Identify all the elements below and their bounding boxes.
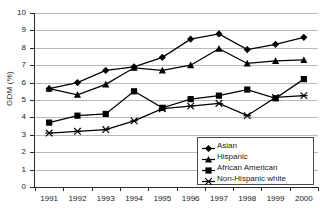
x-star-marker-icon: [201, 173, 216, 184]
data-point-square: [244, 86, 250, 92]
series-non-hispanic-white: [45, 92, 307, 136]
series-line: [49, 79, 304, 123]
data-point-x-star: [300, 92, 308, 99]
chart-legend: AsianHispanicAfrican AmericanNon-Hispani…: [197, 137, 314, 185]
series-african-american: [46, 76, 307, 126]
data-point-x-star: [102, 126, 110, 133]
data-point-diamond: [244, 46, 251, 53]
legend-label: Non-Hispanic white: [216, 174, 286, 183]
data-point-square: [301, 76, 307, 82]
square-marker-icon: [201, 162, 216, 173]
gdm-trend-line-chart: GDM (%) 012345678910 1991199219931994199…: [0, 0, 325, 217]
data-point-x-star: [130, 118, 138, 125]
data-point-square: [46, 120, 52, 126]
legend-item-african-american: African American: [201, 162, 310, 173]
data-point-x-star: [187, 103, 195, 110]
data-point-diamond: [272, 41, 279, 48]
legend-label: African American: [216, 163, 277, 172]
series-line: [49, 96, 304, 133]
data-point-square: [216, 93, 222, 99]
data-point-diamond: [300, 34, 307, 41]
diamond-marker-icon: [201, 140, 216, 151]
data-point-diamond: [102, 67, 109, 74]
data-point-diamond: [187, 36, 194, 43]
data-point-square: [131, 88, 137, 94]
series-hispanic: [46, 45, 308, 98]
legend-label: Hispanic: [216, 152, 248, 161]
series-line: [49, 49, 304, 95]
data-point-diamond: [215, 30, 222, 37]
data-point-square: [103, 111, 109, 117]
data-point-x-star: [205, 178, 213, 185]
data-point-x-star: [215, 100, 223, 107]
data-point-square: [188, 96, 194, 102]
legend-item-hispanic: Hispanic: [201, 151, 310, 162]
triangle-marker-icon: [201, 151, 216, 162]
data-point-triangle: [102, 81, 109, 88]
data-point-diamond: [74, 79, 81, 86]
data-point-x-star: [45, 130, 53, 137]
data-point-triangle: [215, 45, 222, 52]
legend-item-non-hispanic-white: Non-Hispanic white: [201, 173, 310, 184]
data-point-x-star: [243, 112, 251, 119]
legend-item-asian: Asian: [201, 140, 310, 151]
data-point-diamond: [159, 54, 166, 61]
data-point-square: [74, 113, 80, 119]
data-point-x-star: [74, 128, 82, 135]
legend-label: Asian: [216, 141, 237, 150]
data-point-triangle: [187, 62, 194, 69]
